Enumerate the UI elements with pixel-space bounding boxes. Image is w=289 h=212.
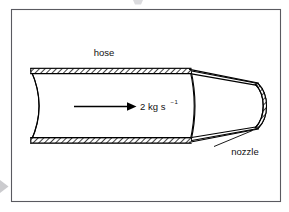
figure-root: hose 2 kg s − 1 nozzle <box>0 0 289 212</box>
hose-bottom-wall-group <box>31 138 192 144</box>
flow-rate-value: 2 <box>140 101 145 112</box>
hose-body <box>31 71 195 142</box>
scan-artifact-top <box>133 0 143 5</box>
hose-bottom-wall <box>31 138 192 144</box>
hose-label: hose <box>94 47 115 58</box>
scan-artifact-left <box>0 180 9 193</box>
nozzle-label: nozzle <box>231 146 258 157</box>
flow-rate-unit: kg s <box>148 101 166 112</box>
hose-nozzle-diagram: hose 2 kg s − 1 nozzle <box>0 0 289 212</box>
hose-top-wall-group <box>31 68 192 73</box>
hose-top-wall <box>31 68 192 73</box>
hose-assembly <box>31 68 196 143</box>
